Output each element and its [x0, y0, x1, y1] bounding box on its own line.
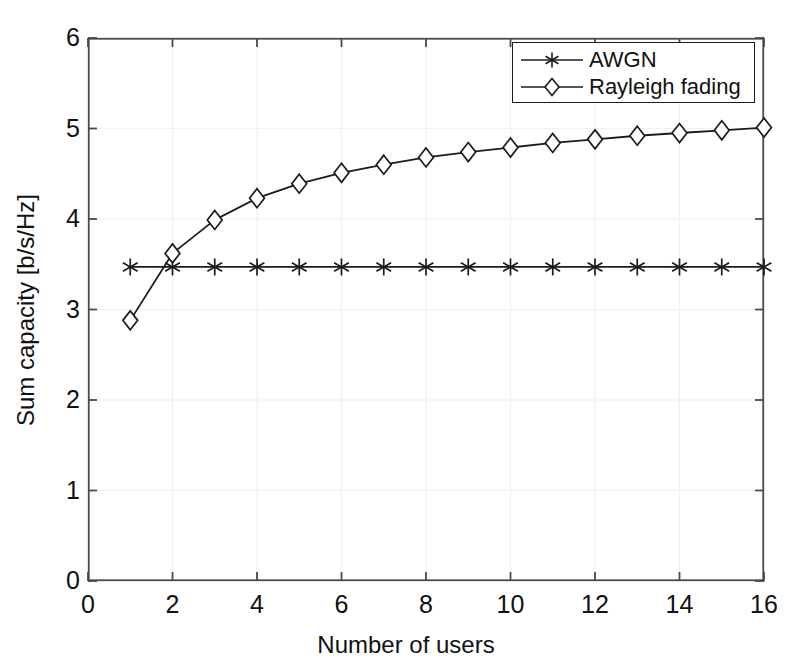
x-tick-label: 14	[650, 592, 710, 617]
series-rayleigh-fading	[123, 118, 772, 330]
marker-diamond	[250, 189, 265, 208]
marker-diamond	[419, 148, 434, 167]
marker-diamond	[672, 124, 687, 143]
legend-sample-asterisk-icon	[519, 49, 585, 71]
x-tick-label: 10	[481, 592, 541, 617]
marker-diamond	[334, 163, 349, 182]
x-tick-label: 4	[227, 592, 287, 617]
marker-diamond	[207, 210, 222, 229]
marker-diamond	[545, 133, 560, 152]
legend-box: AWGN Rayleigh fading	[512, 42, 755, 103]
legend-item-rayleigh: Rayleigh fading	[513, 73, 754, 100]
x-tick-label: 6	[312, 592, 372, 617]
x-tick-label: 16	[734, 592, 794, 617]
marker-diamond	[292, 174, 307, 193]
grid-lines	[88, 38, 764, 581]
x-tick-label: 8	[396, 592, 456, 617]
x-tick-label: 2	[143, 592, 203, 617]
legend-label-awgn: AWGN	[585, 48, 657, 72]
marker-diamond	[588, 130, 603, 149]
legend-sample-diamond-icon	[519, 76, 585, 98]
plot-canvas	[88, 38, 764, 581]
x-axis-tick-labels: 0246810121416	[0, 592, 812, 628]
x-tick-label: 12	[565, 592, 625, 617]
x-tick-label: 0	[58, 592, 118, 617]
marker-diamond	[503, 138, 518, 157]
x-axis-title: Number of users	[0, 632, 812, 658]
y-axis-title: Sum capacity [b/s/Hz]	[11, 30, 41, 590]
marker-diamond	[757, 118, 772, 137]
plot-area	[88, 38, 764, 581]
series-line	[130, 128, 764, 321]
chart-figure: 0123456 0246810121416 Number of users Su…	[0, 0, 812, 669]
series-awgn	[123, 258, 771, 275]
legend-item-awgn: AWGN	[513, 46, 754, 73]
marker-diamond	[714, 121, 729, 140]
y-axis-title-wrapper: Sum capacity [b/s/Hz]	[11, 30, 41, 590]
marker-diamond	[376, 155, 391, 174]
legend-label-rayleigh: Rayleigh fading	[585, 75, 741, 99]
marker-diamond	[461, 143, 476, 162]
